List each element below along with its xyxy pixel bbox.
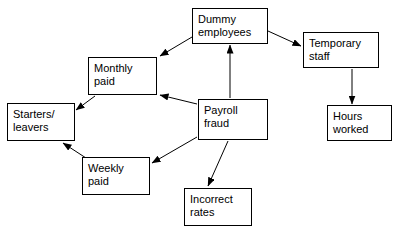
node-payroll-fraud[interactable]: Payroll fraud	[198, 99, 268, 140]
node-dummy-employees[interactable]: Dummy employees	[192, 8, 268, 44]
node-starters-leavers[interactable]: Starters/ leavers	[7, 103, 75, 141]
node-label-incorrect-rates: Incorrect rates	[185, 189, 251, 219]
node-label-hours-worked: Hours worked	[328, 106, 391, 136]
edge-payroll-to-weekly	[152, 137, 197, 163]
node-incorrect-rates[interactable]: Incorrect rates	[184, 188, 252, 226]
edge-dummy-to-monthly	[160, 37, 192, 56]
edge-payroll-to-monthly	[160, 95, 197, 104]
node-temporary-staff[interactable]: Temporary staff	[303, 32, 379, 68]
node-label-dummy-employees: Dummy employees	[193, 9, 267, 39]
node-label-weekly-paid: Weekly paid	[83, 158, 149, 188]
node-hours-worked[interactable]: Hours worked	[327, 105, 392, 141]
edge-payroll-to-incorrect	[208, 141, 228, 186]
diagram-canvas: Dummy employees Temporary staff Hours wo…	[0, 0, 403, 232]
node-monthly-paid[interactable]: Monthly paid	[88, 57, 157, 95]
node-label-monthly-paid: Monthly paid	[89, 58, 156, 88]
edge-weekly-to-starters	[63, 143, 86, 158]
edge-dummy-to-temporary	[268, 31, 301, 46]
node-label-starters-leavers: Starters/ leavers	[8, 104, 74, 134]
node-label-payroll-fraud: Payroll fraud	[199, 100, 267, 130]
edge-monthly-to-starters	[76, 96, 95, 110]
node-label-temporary-staff: Temporary staff	[304, 33, 378, 63]
node-weekly-paid[interactable]: Weekly paid	[82, 157, 150, 195]
